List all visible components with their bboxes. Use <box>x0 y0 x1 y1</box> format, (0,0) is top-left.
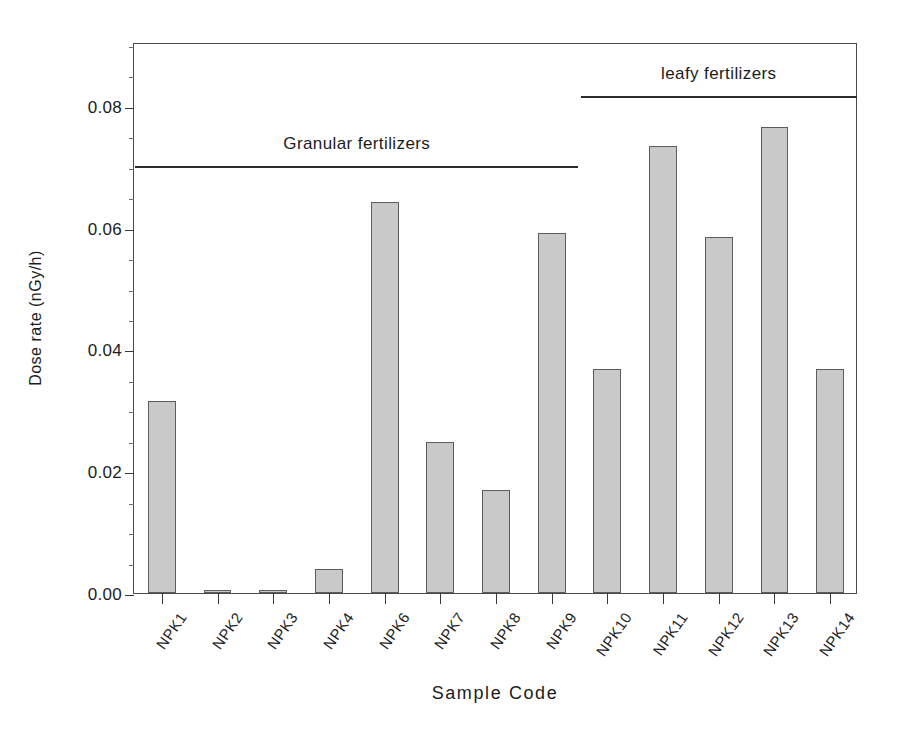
bar-npk10 <box>593 369 621 593</box>
bar-npk9 <box>538 233 566 593</box>
x-tick-mark-npk8 <box>496 593 497 604</box>
x-tick-label-npk4: NPK4 <box>320 609 357 652</box>
y-tick-mark <box>125 230 134 231</box>
y-tick-mark <box>125 473 134 474</box>
y-tick-minor-mark <box>129 443 134 444</box>
x-tick-mark-npk13 <box>774 593 775 604</box>
bar-npk13 <box>761 127 789 593</box>
bar-npk3 <box>259 590 287 593</box>
x-tick-mark-npk10 <box>607 593 608 604</box>
y-tick-label: 0.06 <box>88 220 122 240</box>
bar-npk6 <box>371 202 399 593</box>
y-tick-label: 0.04 <box>88 341 122 361</box>
x-tick-mark-npk2 <box>218 593 219 604</box>
x-tick-mark-npk7 <box>440 593 441 604</box>
bar-npk2 <box>204 590 232 593</box>
bar-npk8 <box>482 490 510 594</box>
y-tick-mark <box>125 595 134 596</box>
bar-npk1 <box>148 401 176 593</box>
y-tick-minor-mark <box>129 534 134 535</box>
y-tick-minor-mark <box>129 321 134 322</box>
group-label-1: leafy fertilizers <box>661 64 776 84</box>
group-line-1 <box>581 96 857 98</box>
x-tick-mark-npk12 <box>719 593 720 604</box>
y-tick-minor-mark <box>129 504 134 505</box>
y-tick-label: 0.02 <box>88 463 122 483</box>
x-tick-label-npk1: NPK1 <box>152 609 189 652</box>
x-tick-label-npk9: NPK9 <box>542 609 579 652</box>
y-tick-minor-mark <box>129 291 134 292</box>
y-tick-minor-mark <box>129 77 134 78</box>
y-tick-label: 0.08 <box>88 98 122 118</box>
y-tick-minor-mark <box>129 565 134 566</box>
y-tick-minor-mark <box>129 382 134 383</box>
x-tick-label-npk14: NPK14 <box>816 609 858 659</box>
y-tick-label: 0.00 <box>88 585 122 605</box>
bar-npk14 <box>816 369 844 593</box>
x-tick-label-npk2: NPK2 <box>208 609 245 652</box>
x-tick-label-npk10: NPK10 <box>593 609 635 659</box>
x-tick-mark-npk3 <box>273 593 274 604</box>
x-tick-label-npk8: NPK8 <box>487 609 524 652</box>
y-tick-mark <box>125 351 134 352</box>
bar-npk11 <box>649 146 677 593</box>
x-axis-title: Sample Code <box>133 683 857 704</box>
x-tick-label-npk13: NPK13 <box>760 609 802 659</box>
x-tick-label-npk12: NPK12 <box>704 609 746 659</box>
y-tick-mark <box>125 108 134 109</box>
x-tick-label-npk11: NPK11 <box>649 609 691 658</box>
bar-npk4 <box>315 569 343 593</box>
y-tick-minor-mark <box>129 47 134 48</box>
x-tick-label-npk3: NPK3 <box>264 609 301 652</box>
bar-npk12 <box>705 237 733 593</box>
group-line-0 <box>135 166 578 168</box>
y-axis-title: Dose rate (nGy/h) <box>27 250 45 386</box>
x-tick-mark-npk9 <box>552 593 553 604</box>
y-tick-minor-mark <box>129 199 134 200</box>
x-tick-mark-npk4 <box>329 593 330 604</box>
x-tick-label-npk6: NPK6 <box>375 609 412 652</box>
x-tick-mark-npk1 <box>162 593 163 604</box>
plot-area: 0.000.020.040.060.08 NPK1NPK2NPK3NPK4NPK… <box>133 43 857 594</box>
x-tick-label-npk7: NPK7 <box>431 609 468 652</box>
y-tick-minor-mark <box>129 260 134 261</box>
x-tick-mark-npk6 <box>385 593 386 604</box>
y-tick-minor-mark <box>129 169 134 170</box>
x-tick-mark-npk14 <box>830 593 831 604</box>
bar-npk7 <box>426 442 454 593</box>
group-label-0: Granular fertilizers <box>283 134 430 154</box>
x-tick-mark-npk11 <box>663 593 664 604</box>
chart-figure: Dose rate (nGy/h) 0.000.020.040.060.08 N… <box>0 0 897 733</box>
y-tick-minor-mark <box>129 412 134 413</box>
y-tick-minor-mark <box>129 138 134 139</box>
